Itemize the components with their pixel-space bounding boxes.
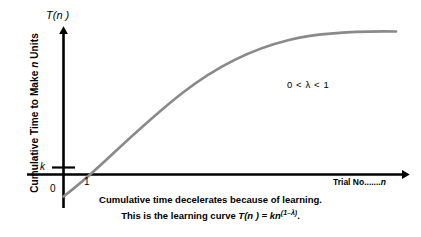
lambda-range-annotation: 0 < λ < 1 [287,80,329,90]
caption-formula-exponent: (1–λ) [281,209,297,216]
caption-line-2-pre: This is the learning curve [121,210,238,221]
y-axis-title-var: n [29,62,40,68]
x-tick-label-one: 1 [84,177,90,187]
y-axis-title-pre: Cumulative Time to Make [29,68,40,193]
learning-curve [64,31,397,196]
learning-curve-figure: Cumulative Time to Make n Units T(n ) Tr… [0,0,421,237]
y-tick-label-k: k [40,162,45,172]
caption-line-2: This is the learning curve T(n ) = kn(1–… [0,206,421,222]
figure-caption: Cumulative time decelerates because of l… [0,193,421,222]
y-axis-title: Cumulative Time to Make n Units [30,33,40,193]
y-axis-name: T(n ) [46,10,69,21]
x-axis-title-pre: Trial No....... [333,177,381,187]
y-axis-title-post: Units [29,33,40,61]
x-axis-title: Trial No.......n [333,178,386,187]
caption-formula: T(n ) = kn [238,210,281,221]
x-axis-title-var: n [381,177,386,187]
caption-line-2-post: . [297,210,300,221]
caption-line-1: Cumulative time decelerates because of l… [99,194,322,205]
